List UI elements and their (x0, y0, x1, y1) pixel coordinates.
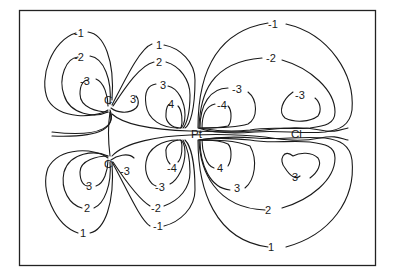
contour-diagram: C C Pt Cl -1 -2 -3 3 1 2 3 4 -1 -2 -3 -4… (0, 0, 394, 279)
contour-label: -3 (155, 181, 165, 193)
contour-label: 3 (234, 182, 240, 194)
contour-label: 3 (292, 171, 298, 183)
contour-label: -3 (295, 89, 305, 101)
contour-label: -3 (80, 75, 90, 87)
contour-label: 2 (156, 56, 162, 68)
contour-label: -1 (268, 18, 278, 30)
contour-label: -1 (153, 220, 163, 232)
atom-label-c-bottom: C (104, 158, 112, 170)
contour-label: 3 (86, 180, 92, 192)
contour-label: 2 (265, 204, 271, 216)
contour-label: -4 (167, 162, 177, 174)
contour-group-lower-right (198, 137, 352, 247)
contour-label: 1 (268, 241, 274, 253)
contour-label: 3 (160, 79, 166, 91)
atom-label-pt: Pt (191, 128, 203, 140)
contour-label: 1 (80, 227, 86, 239)
contour-label: 2 (84, 202, 90, 214)
contour-label: -1 (74, 27, 84, 39)
contour-group-upper-left (45, 32, 139, 116)
contour-label: -2 (266, 52, 276, 64)
atom-label-cl: Cl (291, 128, 302, 140)
contour-label: 4 (168, 98, 174, 110)
contour-label: 4 (217, 162, 223, 174)
contour-group-upper-right (198, 23, 352, 133)
contour-label: -3 (232, 83, 242, 95)
contour-group-upper-middle (112, 44, 195, 128)
contour-label: 3 (130, 93, 136, 105)
atom-label-c-top: C (104, 94, 112, 106)
contour-label: -2 (151, 202, 161, 214)
contour-label: 1 (156, 39, 162, 51)
contour-label: -3 (120, 165, 130, 177)
contour-label: -2 (74, 51, 84, 63)
contour-label: -4 (217, 99, 227, 111)
